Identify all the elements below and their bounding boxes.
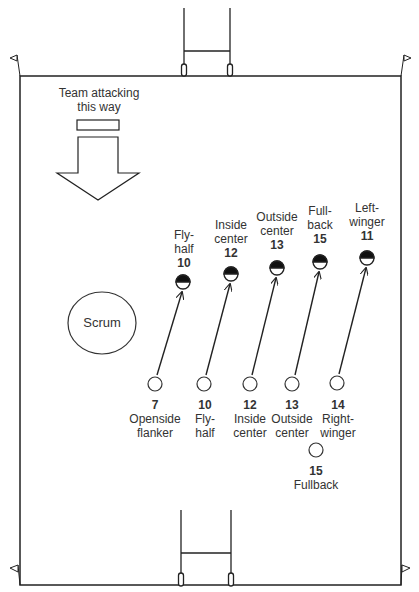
- scrum-label: Scrum: [83, 316, 121, 330]
- defender-marker-icon: [224, 267, 238, 281]
- field-boundary: [20, 76, 401, 585]
- attacker-label: 12 Inside center: [233, 398, 266, 440]
- attacker-marker-icon: [285, 377, 299, 391]
- defender-marker-icon: [270, 261, 284, 275]
- attacker-marker-icon: [197, 377, 211, 391]
- defender-label: Fly- half 10: [174, 228, 194, 270]
- attacker-marker-icon: [309, 443, 323, 457]
- defender-marker-icon: [313, 255, 327, 269]
- defender-label: Inside center 12: [214, 218, 247, 260]
- attacker-label: 7 Openside flanker: [129, 398, 180, 440]
- attacker-label: 10 Fly- half: [195, 398, 215, 440]
- attacker-marker-icon: [330, 376, 344, 390]
- attacker-label: 14 Right- winger: [320, 398, 355, 440]
- corner-flag-icon: [10, 55, 411, 585]
- defender-label: Outside center 13: [256, 210, 297, 252]
- attack-direction-label: Team attacking this way: [59, 86, 140, 114]
- arrow-down-icon: [57, 120, 139, 200]
- attacker-label: 13 Outside center: [271, 398, 312, 440]
- attacker-label: 15 Fullback: [294, 464, 339, 492]
- defender-label: Left- winger 11: [349, 201, 384, 243]
- defender-marker-icon: [360, 251, 374, 265]
- top-goal-posts-icon: [182, 8, 233, 76]
- bottom-goal-posts-icon: [179, 510, 234, 586]
- attacker-marker-icon: [148, 377, 162, 391]
- defender-label: Full- back 15: [307, 204, 332, 246]
- defender-marker-icon: [176, 275, 190, 289]
- attacker-marker-icon: [243, 377, 257, 391]
